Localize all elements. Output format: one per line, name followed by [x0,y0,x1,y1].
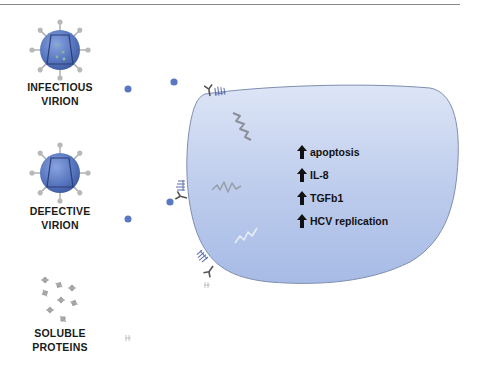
label-line: VIRION [10,218,110,232]
label-line: VIRION [10,94,110,108]
label-line: DEFECTIVE [10,204,110,218]
up-arrow-icon [297,191,307,205]
cell-effects-list: apoptosis IL-8 TGFb1 HCV replication [297,140,388,232]
effect-hcv-replication: HCV replication [297,209,388,232]
label-line: PROTEINS [10,340,110,354]
small-virion-icon [125,86,132,93]
up-arrow-icon [297,168,307,182]
infectious-virion-icon [29,19,90,80]
up-arrow-icon [297,214,307,228]
effect-il8: IL-8 [297,163,388,186]
label-line: SOLUBLE [10,326,110,340]
defective-virion-icon [29,142,90,203]
small-protein-icon [125,335,131,341]
receptor-top-icon [170,78,226,96]
effect-label: HCV replication [310,215,388,227]
effect-label: IL-8 [310,169,329,181]
effect-tgfb1: TGFb1 [297,186,388,209]
soluble-proteins-label: SOLUBLE PROTEINS [10,326,110,354]
defective-virion-label: DEFECTIVE VIRION [10,204,110,232]
effect-label: apoptosis [310,146,360,158]
infectious-virion-label: INFECTIOUS VIRION [10,80,110,108]
effect-apoptosis: apoptosis [297,140,388,163]
effect-label: TGFb1 [310,192,343,204]
receptor-middle-icon [166,180,188,206]
soluble-proteins-icon [40,276,79,324]
label-line: INFECTIOUS [10,80,110,94]
diagram-canvas [0,0,480,374]
up-arrow-icon [297,145,307,159]
small-defective-virion-icon [125,216,132,223]
